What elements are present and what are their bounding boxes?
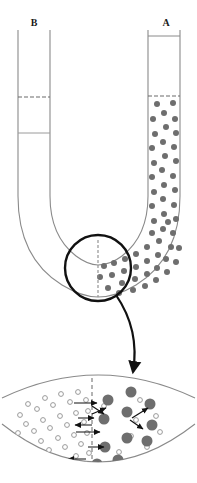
tube-right-inner-wall bbox=[98, 30, 148, 265]
solute-particles-bend bbox=[97, 219, 182, 296]
solute-particles-detail bbox=[92, 387, 158, 470]
label-arm-a: A bbox=[162, 17, 170, 28]
solute-particles-right-arm bbox=[149, 100, 179, 236]
solvent-particles bbox=[16, 390, 92, 469]
magnified-detail bbox=[2, 375, 195, 478]
callout-arrow bbox=[116, 295, 135, 372]
arrow-deflect-2 bbox=[92, 408, 106, 414]
arrow-solute-diag-1 bbox=[132, 408, 148, 418]
detail-arc-inner bbox=[2, 424, 195, 462]
tube-left-inner-wall bbox=[50, 30, 98, 265]
detail-arc-outer bbox=[2, 375, 195, 398]
osmosis-diagram-svg: B A bbox=[0, 0, 197, 483]
osmosis-figure: B A bbox=[0, 0, 197, 483]
arrow-solute-diag-3 bbox=[104, 468, 120, 472]
tube-left-outer-wall bbox=[18, 30, 98, 297]
label-arm-b: B bbox=[31, 17, 38, 28]
